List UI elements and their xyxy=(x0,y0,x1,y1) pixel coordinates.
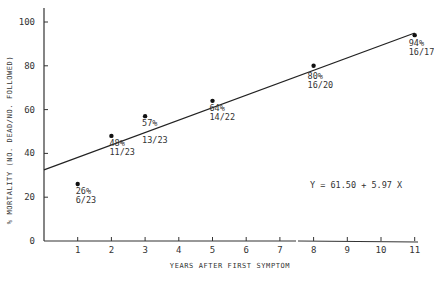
x-tick-label: 6 xyxy=(243,245,248,255)
y-axis-title: % MORTALITY (NO. DEAD/NO. FOLLOWED) xyxy=(6,56,14,225)
y-tick-label: 100 xyxy=(19,17,35,27)
x-tick-label: 3 xyxy=(142,245,147,255)
point-pct-label: 57% xyxy=(142,118,157,128)
x-tick-label: 7 xyxy=(277,245,282,255)
point-ratio-label: 14/22 xyxy=(210,112,236,122)
x-axis-title: YEARS AFTER FIRST SYMPTOM xyxy=(170,262,290,270)
y-tick-label: 60 xyxy=(24,105,35,115)
regression-line xyxy=(44,33,415,170)
point-ratio-label: 6/23 xyxy=(76,195,96,205)
x-tick-label: 2 xyxy=(109,245,114,255)
data-point xyxy=(413,33,417,37)
regression-equation: Y = 61.50 + 5.97 X xyxy=(310,180,403,190)
point-ratio-label: 16/17 xyxy=(409,47,434,57)
point-ratio-label: 16/20 xyxy=(308,80,334,90)
x-tick-label: 4 xyxy=(176,245,181,255)
y-tick-label: 40 xyxy=(24,148,35,158)
y-tick-label: 0 xyxy=(30,236,35,246)
y-tick-label: 20 xyxy=(24,192,35,202)
data-point xyxy=(311,64,315,68)
x-tick-label: 8 xyxy=(311,245,316,255)
x-axis-right xyxy=(298,241,418,242)
x-tick-label: 9 xyxy=(345,245,350,255)
point-ratio-label: 11/23 xyxy=(109,147,135,157)
x-tick-label: 10 xyxy=(376,245,387,255)
point-ratio-label: 13/23 xyxy=(142,135,168,145)
x-tick-label: 11 xyxy=(409,245,420,255)
x-ticks: 1234567891011 xyxy=(75,237,420,255)
mortality-chart: 020406080100 1234567891011 26%6/2348%11/… xyxy=(0,0,434,298)
x-tick-label: 5 xyxy=(210,245,215,255)
x-tick-label: 1 xyxy=(75,245,80,255)
y-tick-label: 80 xyxy=(24,61,35,71)
